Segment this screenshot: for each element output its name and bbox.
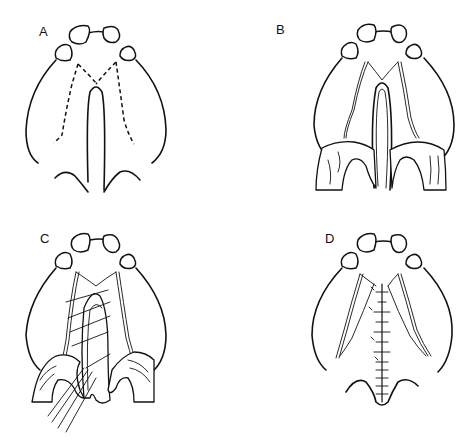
- palate-drawing-b: [234, 0, 468, 220]
- panel-c: C: [0, 220, 234, 440]
- panel-b: B: [234, 0, 468, 220]
- panel-d: D: [234, 220, 468, 440]
- surgical-diagram-figure: A B: [0, 0, 468, 441]
- teeth-icon: [341, 234, 421, 269]
- teeth-icon: [341, 24, 421, 58]
- teeth-icon: [55, 234, 135, 269]
- palate-drawing-c: [0, 220, 234, 440]
- palate-drawing-d: [234, 220, 468, 440]
- palate-drawing-a: [0, 0, 234, 220]
- suture-icon: [369, 287, 390, 394]
- panel-a: A: [0, 0, 234, 220]
- teeth-icon: [55, 26, 135, 61]
